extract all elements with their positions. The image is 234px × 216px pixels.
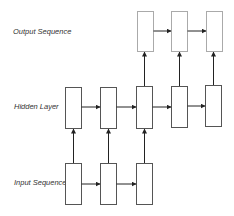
hidden-box-4	[172, 87, 188, 128]
hidden-box-2	[101, 88, 117, 129]
output-box-3	[207, 12, 223, 52]
input-layer	[66, 164, 153, 205]
input-box-2	[101, 164, 117, 205]
hidden-layer	[66, 86, 222, 129]
output-box-1	[138, 12, 154, 52]
input-to-hidden-arrows	[74, 129, 145, 163]
hidden-box-5	[206, 86, 222, 127]
input-box-1	[66, 164, 82, 205]
rnn-diagram	[0, 0, 234, 216]
output-box-2	[172, 12, 188, 52]
hidden-box-3	[137, 87, 153, 129]
input-box-3	[137, 164, 153, 205]
output-layer	[138, 12, 223, 52]
hidden-to-output-arrows	[145, 52, 214, 86]
hidden-box-1	[66, 88, 82, 129]
